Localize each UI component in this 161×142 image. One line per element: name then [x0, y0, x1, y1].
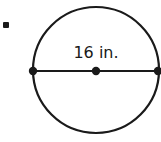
circle-diagram: 16 in.	[0, 0, 161, 142]
left-endpoint-dot	[29, 67, 37, 75]
right-endpoint-dot	[154, 67, 161, 75]
center-dot	[92, 67, 100, 75]
diameter-measurement-label: 16 in.	[73, 43, 118, 62]
